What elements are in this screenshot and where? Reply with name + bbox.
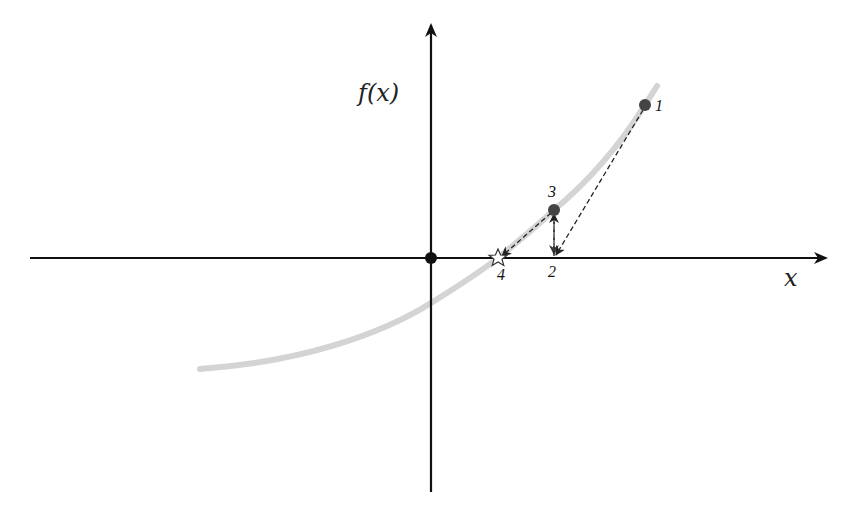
point-1-dot-icon (639, 99, 651, 111)
point-4-label: 4 (497, 266, 505, 283)
origin-dot-icon (425, 252, 437, 264)
point-2-label: 2 (548, 263, 556, 280)
x-axis-label: x (784, 264, 798, 292)
point-3-label: 3 (547, 183, 556, 200)
step-1-to-2-arrow (556, 110, 643, 255)
point-3-dot-icon (548, 204, 560, 216)
diagram-canvas: f(x) x 1 3 2 4 (0, 0, 847, 513)
y-axis-label: f(x) (356, 79, 399, 107)
point-1-label: 1 (655, 97, 663, 114)
function-curve (200, 86, 657, 369)
